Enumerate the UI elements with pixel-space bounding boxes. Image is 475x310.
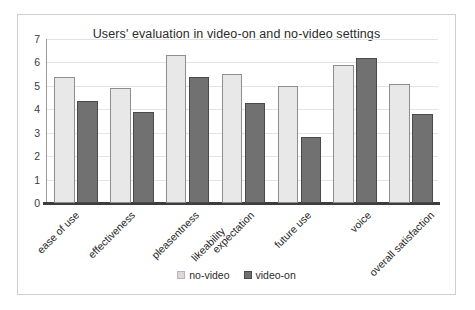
bar-no-video [110,88,131,203]
bar-video-on [356,58,377,203]
bar-no-video [222,74,243,203]
bar-video-on [412,114,433,203]
x-tick-label-ease-of-use: ease of use [0,209,81,310]
bar-group [389,39,433,203]
y-tick-label-1: 1 [34,174,40,185]
plot-area: 76543210 [47,39,438,203]
bar-series-container [47,39,438,203]
legend-swatch-icon [244,271,252,279]
y-tick-label-7: 7 [34,34,40,45]
bar-video-on [133,112,154,203]
y-tick-label-2: 2 [34,151,40,162]
legend-label: video-on [256,269,296,281]
y-tick-label-3: 3 [34,127,40,138]
legend-swatch-icon [177,271,185,279]
bar-video-on [301,137,322,203]
y-tick-label-4: 4 [34,104,40,115]
legend-item-video-on[interactable]: video-on [244,269,296,281]
chart-legend: no-videovideo-on [18,269,455,281]
y-tick-label-5: 5 [34,81,40,92]
legend-label: no-video [189,269,229,281]
chart-figure: Users' evaluation in video-on and no-vid… [17,14,456,295]
bar-no-video [389,84,410,203]
bar-group [333,39,377,203]
bar-video-on [245,103,266,203]
bar-video-on [189,77,210,204]
bar-no-video [166,55,187,203]
bar-group [222,39,266,203]
bar-group [110,39,154,203]
bar-video-on [77,101,98,203]
bar-no-video [278,86,299,203]
bar-no-video [333,65,354,203]
bar-group [166,39,210,203]
legend-item-no-video[interactable]: no-video [177,269,229,281]
bar-group [54,39,98,203]
bar-group [278,39,322,203]
bar-no-video [54,77,75,204]
y-tick-label-6: 6 [34,57,40,68]
y-tick-label-0: 0 [34,198,40,209]
